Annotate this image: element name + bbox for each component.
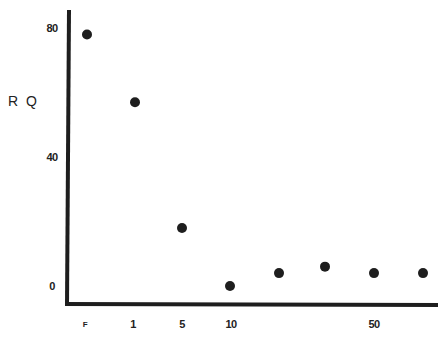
data-point [369, 268, 379, 278]
y-axis-label: R Q [8, 93, 39, 109]
y-tick-label: 80 [46, 22, 57, 34]
y-tick-label: 40 [46, 151, 57, 163]
x-tick-label: 10 [225, 318, 236, 330]
x-axis [65, 304, 438, 305]
x-tick-label: F [83, 320, 87, 329]
data-point [274, 268, 284, 278]
data-points [82, 29, 428, 291]
data-point [320, 262, 330, 272]
y-axis [67, 10, 69, 304]
data-point [418, 268, 428, 278]
data-point [82, 29, 92, 39]
data-point [177, 223, 187, 233]
x-tick-label: 5 [179, 318, 185, 330]
x-tick-label: 1 [130, 318, 136, 330]
x-tick-label: 50 [368, 318, 379, 330]
data-point [130, 97, 140, 107]
scatter-chart [0, 0, 448, 342]
data-point [225, 281, 235, 291]
y-tick-label: 0 [49, 280, 55, 292]
